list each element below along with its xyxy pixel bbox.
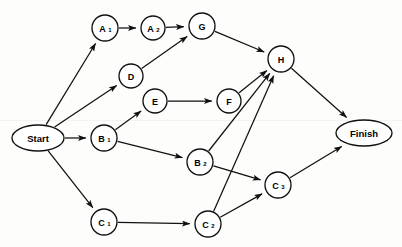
node-d[interactable]: D [119,64,143,88]
node-label-a2: A [147,24,154,34]
node-finish[interactable]: Finish [336,120,392,146]
node-label-c3: C [272,181,279,191]
node-c3[interactable]: C3 [265,172,291,198]
edge-start-to-d [55,86,117,127]
node-label-c1: C [98,218,105,228]
node-c1[interactable]: C1 [91,209,117,235]
diagram-canvas: StartA1A2GDEFHB1B2C1C2C3Finish [0,0,402,247]
edge-b1-to-e [115,111,141,130]
node-label-e: E [152,97,158,107]
node-label-g: G [198,22,205,32]
graph-svg: StartA1A2GDEFHB1B2C1C2C3Finish [0,0,402,247]
edge-c3-to-finish [290,146,342,177]
edge-b2-to-h [209,73,270,151]
node-b2[interactable]: B2 [187,149,213,175]
node-start[interactable]: Start [12,125,64,151]
edges-layer [46,27,346,224]
node-label-h: H [278,55,285,65]
node-g[interactable]: G [189,13,215,39]
nodes-layer: StartA1A2GDEFHB1B2C1C2C3Finish [12,13,392,237]
node-label-c2: C [202,220,209,230]
node-label-b2: B [194,158,201,168]
node-c2[interactable]: C2 [195,211,221,237]
edge-start-to-a1 [46,44,95,125]
node-b1[interactable]: B1 [91,125,117,151]
edge-h-to-finish [291,68,346,117]
edge-g-to-h [215,31,264,52]
node-label-b1: B [98,134,105,144]
node-label-finish: Finish [350,128,378,139]
node-label-a1: A [99,24,106,34]
node-a1[interactable]: A1 [92,15,118,41]
node-label-start: Start [27,133,49,144]
edge-b2-to-c3 [213,166,260,180]
edge-c2-to-c3 [220,194,262,217]
node-e[interactable]: E [143,89,167,113]
node-h[interactable]: H [268,46,294,72]
node-label-d: D [128,72,135,82]
edge-d-to-g [142,36,187,68]
edge-b1-to-b2 [118,141,183,157]
node-a2[interactable]: A2 [141,16,165,40]
node-label-f: F [226,97,232,107]
edge-c1-to-c2 [118,222,190,223]
edge-start-to-c1 [48,151,93,208]
node-f[interactable]: F [217,89,241,113]
edge-a2-to-g [166,27,184,28]
